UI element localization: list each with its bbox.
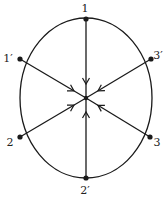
node-label-2p: 2′ (80, 184, 90, 197)
edge-3p-to-center (86, 59, 151, 98)
center-node (84, 96, 88, 100)
node-label-3p: 3′ (153, 49, 163, 62)
edge-1p-to-center (20, 59, 86, 98)
node-2 (17, 134, 22, 139)
edge-2-to-center (20, 98, 86, 137)
node-3 (147, 134, 152, 139)
diagram-canvas: 11′3′232′ (0, 0, 166, 199)
node-label-1: 1 (82, 2, 89, 15)
node-label-3: 3 (154, 136, 161, 149)
node-1 (83, 16, 88, 21)
node-label-1p: 1′ (3, 52, 13, 65)
node-1p (17, 56, 22, 61)
edge-3-to-center (86, 98, 150, 137)
node-label-2: 2 (7, 136, 14, 149)
node-2p (83, 175, 88, 180)
